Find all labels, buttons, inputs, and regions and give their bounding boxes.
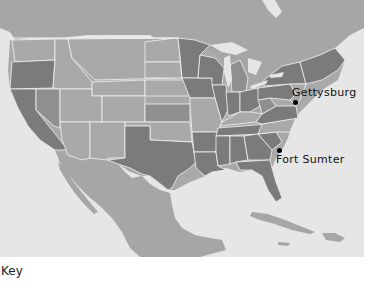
fort-sumter-label: Fort Sumter	[276, 153, 345, 166]
state-kansas	[145, 104, 190, 122]
state-arkansas	[192, 132, 218, 152]
gettysburg-marker[interactable]	[293, 100, 298, 105]
state-north-dakota	[145, 38, 180, 62]
state-colorado	[102, 96, 145, 122]
state-indiana	[226, 92, 240, 116]
state-washington	[12, 39, 55, 62]
state-south-dakota	[145, 62, 182, 78]
gettysburg-label: Gettysburg	[292, 86, 356, 99]
map-svg	[0, 0, 364, 257]
state-oregon	[10, 60, 55, 89]
key-label: Key	[1, 264, 23, 278]
state-new-mexico	[90, 122, 125, 160]
us-map	[0, 0, 364, 257]
state-mississippi	[216, 136, 230, 166]
state-nebraska	[145, 80, 190, 96]
state-wyoming	[92, 80, 145, 96]
